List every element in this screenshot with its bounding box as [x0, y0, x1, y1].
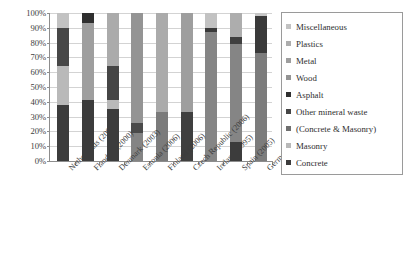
legend-swatch-icon	[286, 160, 291, 165]
legend-swatch-icon	[286, 41, 291, 46]
stacked-bar[interactable]	[82, 13, 94, 161]
legend-item[interactable]: Concrete	[286, 154, 328, 171]
legend-label: Concrete	[296, 158, 328, 168]
stacked-bar[interactable]	[57, 13, 69, 161]
y-axis-tick-label: 50%	[4, 83, 46, 92]
legend-item[interactable]: Asphalt	[286, 86, 323, 103]
bar-segment[interactable]	[230, 37, 242, 44]
bar-segment[interactable]	[107, 13, 119, 66]
x-axis-tick-label: Netherlands (2001)	[67, 166, 73, 172]
legend-item[interactable]: Masonry	[286, 137, 327, 154]
y-axis-tick-label: 90%	[4, 23, 46, 32]
x-axis-tick-label: Ireland (1995)	[215, 166, 221, 172]
bar-segment[interactable]	[107, 66, 119, 100]
y-axis-tick-label: 10%	[4, 142, 46, 151]
legend-swatch-icon	[286, 58, 291, 63]
bar-segment[interactable]	[82, 13, 94, 23]
x-axis-tick-label: Finland (2006)	[166, 166, 172, 172]
legend-label: Asphalt	[296, 90, 323, 100]
bar-segment[interactable]	[82, 23, 94, 100]
legend-item[interactable]: Miscellaneous	[286, 18, 347, 35]
stacked-bar[interactable]	[156, 13, 168, 161]
stacked-bar[interactable]	[131, 13, 143, 161]
legend-item[interactable]: Wood	[286, 69, 317, 86]
bar-segment[interactable]	[255, 16, 267, 53]
y-axis-tick-label: 100%	[4, 9, 46, 18]
x-axis-tick-labels: Netherlands (2001)Flanders (2000)Denmark…	[49, 166, 279, 258]
legend-label: Plastics	[296, 39, 323, 49]
legend-item[interactable]: Metal	[286, 52, 317, 69]
legend-swatch-icon	[286, 126, 291, 131]
legend-swatch-icon	[286, 143, 291, 148]
y-axis-tick-label: 20%	[4, 127, 46, 136]
y-axis-tick-label: 70%	[4, 53, 46, 62]
legend-swatch-icon	[286, 109, 291, 114]
legend-item[interactable]: Other mineral waste	[286, 103, 367, 120]
bar-segment[interactable]	[57, 66, 69, 104]
legend-label: (Concrete & Masonry)	[296, 124, 376, 134]
bar-segment[interactable]	[131, 13, 143, 123]
x-axis-tick-label: Denmark (2003)	[117, 166, 123, 172]
stacked-bar[interactable]	[255, 13, 267, 161]
legend-label: Masonry	[296, 141, 327, 151]
y-axis-tick-label: 40%	[4, 97, 46, 106]
legend-swatch-icon	[286, 75, 291, 80]
x-axis-tick-label: Spain (2005)	[240, 166, 246, 172]
bar-segment[interactable]	[156, 13, 168, 112]
y-axis-tick-label: 30%	[4, 112, 46, 121]
y-axis-tick-label: 60%	[4, 68, 46, 77]
y-axis-tick-label: 80%	[4, 38, 46, 47]
legend-label: Miscellaneous	[296, 22, 347, 32]
y-axis-tickmark	[47, 161, 50, 162]
legend-label: Wood	[296, 73, 317, 83]
stacked-bar[interactable]	[230, 13, 242, 161]
legend-swatch-icon	[286, 24, 291, 29]
bar-segment[interactable]	[230, 13, 242, 37]
bar-segment[interactable]	[181, 13, 193, 112]
plot-area	[49, 13, 272, 162]
x-axis-tick-label: Estonia (2006)	[141, 166, 147, 172]
legend-item[interactable]: Plastics	[286, 35, 323, 52]
legend-swatch-icon	[286, 92, 291, 97]
y-axis-tick-label: 0%	[4, 157, 46, 166]
bar-segment[interactable]	[107, 100, 119, 109]
bar-segment[interactable]	[131, 123, 143, 133]
x-axis-tick-label: Flanders (2000)	[92, 166, 98, 172]
y-axis-tick-labels: 0%10%20%30%40%50%60%70%80%90%100%	[4, 13, 46, 161]
plot-wrapper: 0%10%20%30%40%50%60%70%80%90%100% Nether…	[0, 0, 275, 258]
x-axis-tick-label: Germany (2007)	[265, 166, 271, 172]
x-axis-tick-label: Czech Republic (2006)	[191, 166, 197, 172]
stacked-bar[interactable]	[181, 13, 193, 161]
bar-segment[interactable]	[57, 105, 69, 161]
legend-label: Metal	[296, 56, 317, 66]
legend-label: Other mineral waste	[296, 107, 367, 117]
stacked-bar[interactable]	[107, 13, 119, 161]
chart-figure: 0%10%20%30%40%50%60%70%80%90%100% Nether…	[0, 0, 407, 258]
stacked-bar[interactable]	[205, 13, 217, 161]
bar-segment[interactable]	[57, 28, 69, 66]
bar-segment[interactable]	[205, 13, 217, 28]
bar-group	[50, 13, 272, 161]
bar-segment[interactable]	[57, 13, 69, 28]
legend-item[interactable]: (Concrete & Masonry)	[286, 120, 376, 137]
chart-legend: MiscellaneousPlasticsMetalWoodAsphaltOth…	[281, 12, 403, 175]
